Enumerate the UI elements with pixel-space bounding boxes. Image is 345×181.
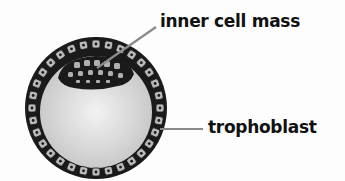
inner-cell-mass-label: inner cell mass: [160, 11, 300, 31]
trophoblast-label: trophoblast: [208, 117, 317, 137]
